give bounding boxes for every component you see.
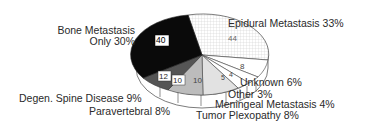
count-unknown: 8 xyxy=(240,61,244,72)
label-unknown: Unknown 6% xyxy=(240,77,302,88)
count-epidural: 44 xyxy=(228,33,237,44)
count-other: 4 xyxy=(229,69,233,80)
count-degen: 12 xyxy=(159,71,168,82)
count-tumor: 10 xyxy=(193,75,202,86)
label-paravertebral: Paravertebral 8% xyxy=(89,106,170,117)
label-degen: Degen. Spine Disease 9% xyxy=(19,93,142,104)
count-paravertebral: 10 xyxy=(173,75,182,86)
count-meningeal: 5 xyxy=(221,72,225,83)
label-bone-line2: Only 30% xyxy=(52,36,135,47)
count-bone: 40 xyxy=(156,35,165,46)
label-tumor: Tumor Plexopathy 8% xyxy=(196,110,299,121)
label-epidural: Epidural Metastasis 33% xyxy=(228,18,344,29)
